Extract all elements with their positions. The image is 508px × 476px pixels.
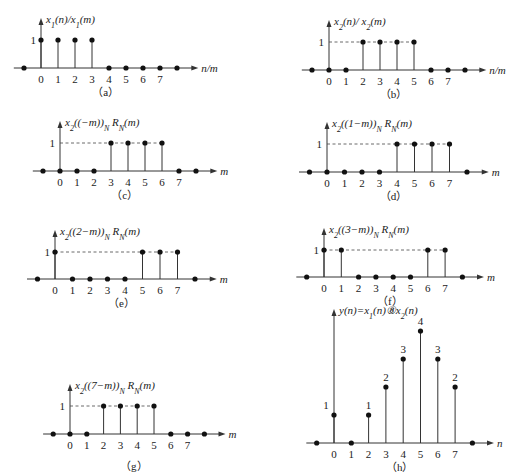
stem-marker	[453, 384, 458, 389]
x-tick-label: 5	[408, 282, 414, 294]
x-tick-label: 2	[101, 439, 107, 451]
stem-marker	[359, 169, 364, 174]
stem-marker	[428, 67, 433, 72]
stem-plot-g: 101234567mx2((7−m))N RN(m)（g）	[43, 379, 236, 472]
circular-convolution-figure: 101234567n/mx1(n)/x1(m)（a）101234567n/mx2…	[0, 0, 508, 476]
panel-caption: （d）	[380, 190, 408, 202]
x-axis-label: m	[220, 165, 228, 177]
y-axis-arrow-icon	[322, 228, 327, 235]
x-axis-arrow-icon	[210, 169, 217, 174]
x-tick-label: 5	[142, 176, 148, 188]
x-tick-label: 0	[326, 75, 332, 87]
stem-marker	[151, 403, 156, 408]
stem-marker	[326, 67, 331, 72]
y-axis-label: x2((1−m))N RN(m)	[331, 117, 412, 134]
x-tick-label: 2	[91, 176, 97, 188]
x-tick-label: 3	[118, 439, 124, 451]
x-tick-label: 0	[321, 282, 327, 294]
stem-marker	[118, 403, 123, 408]
stem-marker	[38, 37, 43, 42]
x-tick-label: 5	[411, 75, 417, 87]
y-axis-arrow-icon	[332, 309, 337, 316]
stem-marker	[123, 65, 128, 70]
stem-plot-a: 101234567n/mx1(n)/x1(m)（a）	[14, 13, 218, 98]
stem-marker	[394, 141, 399, 146]
y-tick-label: 1	[319, 36, 325, 48]
x-axis-arrow-icon	[191, 66, 198, 71]
stem-marker	[67, 431, 72, 436]
x-tick-label: 5	[123, 73, 129, 85]
stem-marker	[349, 440, 354, 445]
x-tick-label: 6	[140, 73, 146, 85]
stem-marker	[91, 168, 96, 173]
stem-marker	[101, 403, 106, 408]
y-axis-arrow-icon	[325, 122, 330, 129]
value-label: 1	[323, 399, 329, 411]
stem-marker	[176, 168, 181, 173]
x-axis-label: m	[487, 271, 495, 283]
x-tick-label: 3	[383, 448, 389, 460]
stem-marker	[447, 141, 452, 146]
stem-marker	[462, 67, 467, 72]
stem-marker	[40, 168, 45, 173]
x-tick-label: 1	[343, 75, 349, 87]
stem-marker	[339, 247, 344, 252]
x-tick-label: 5	[412, 177, 418, 189]
x-axis-arrow-icon	[477, 275, 484, 280]
value-label: 4	[418, 315, 424, 327]
stem-marker	[418, 328, 423, 333]
y-axis-label: y(n)=x1(n)⑧x2(n)	[338, 304, 418, 321]
stem-marker	[175, 249, 180, 254]
stem-plot-e: 101234567mx2((2−m))N RN(m)（e）	[27, 225, 228, 309]
x-tick-label: 0	[38, 73, 44, 85]
y-axis-label: x2((7−m))N RN(m)	[74, 379, 155, 396]
stem-marker	[412, 141, 417, 146]
x-axis-label: n	[497, 437, 503, 449]
stem-marker	[52, 249, 57, 254]
x-tick-label: 7	[452, 448, 458, 460]
value-label: 3	[400, 343, 406, 355]
x-tick-label: 4	[390, 282, 396, 294]
stem-marker	[307, 169, 312, 174]
x-tick-label: 1	[74, 176, 80, 188]
x-axis-arrow-icon	[487, 441, 494, 446]
stem-plot-f: 101234567mx2((3−m))N RN(m)（f）	[296, 223, 495, 307]
y-axis-arrow-icon	[58, 121, 63, 128]
stem-marker	[157, 65, 162, 70]
y-axis-arrow-icon	[68, 384, 73, 391]
x-tick-label: 2	[360, 75, 366, 87]
x-tick-label: 0	[57, 176, 63, 188]
stem-marker	[435, 356, 440, 361]
x-tick-label: 2	[87, 284, 93, 296]
stem-marker	[391, 274, 396, 279]
x-tick-label: 7	[185, 439, 191, 451]
x-tick-label: 7	[157, 73, 163, 85]
x-tick-label: 3	[377, 177, 383, 189]
value-label: 3	[435, 343, 441, 355]
x-axis-label: m	[229, 428, 237, 440]
stem-plot-b: 101234567n/mx2(n)/ x2(m)（b）	[302, 15, 506, 100]
x-tick-label: 3	[373, 282, 379, 294]
x-tick-label: 7	[442, 282, 448, 294]
stem-marker	[377, 39, 382, 44]
x-tick-label: 6	[168, 439, 174, 451]
panel-caption: （g）	[120, 460, 148, 472]
x-tick-label: 0	[52, 284, 58, 296]
x-axis-arrow-icon	[210, 277, 217, 282]
stem-marker	[157, 249, 162, 254]
stem-marker	[135, 403, 140, 408]
x-tick-label: 4	[122, 284, 128, 296]
x-tick-label: 2	[359, 177, 365, 189]
x-tick-label: 4	[134, 439, 140, 451]
stem-marker	[105, 276, 110, 281]
stem-plot-d: 101234567mx2((1−m))N RN(m)（d）	[299, 117, 500, 202]
x-tick-label: 4	[125, 176, 131, 188]
x-tick-label: 1	[84, 439, 90, 451]
stem-marker	[106, 65, 111, 70]
stem-marker	[168, 431, 173, 436]
x-tick-label: 6	[157, 284, 163, 296]
x-tick-label: 4	[394, 177, 400, 189]
x-tick-label: 5	[151, 439, 157, 451]
y-axis-label: x2((−m))N RN(m)	[64, 116, 140, 133]
x-axis-arrow-icon	[482, 170, 489, 175]
